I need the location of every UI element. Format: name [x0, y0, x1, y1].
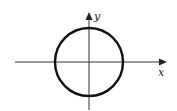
coordinate-diagram: y x — [0, 0, 177, 111]
x-axis-arrowhead-icon — [159, 59, 167, 66]
x-axis — [15, 59, 167, 66]
y-axis-label: y — [93, 10, 101, 23]
y-axis-arrowhead-icon — [86, 12, 93, 20]
x-axis-label: x — [158, 66, 165, 79]
